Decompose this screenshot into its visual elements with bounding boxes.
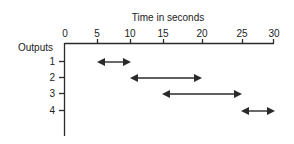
interval-arrow-output-1 [97, 58, 131, 66]
y-tick-label: 4 [49, 105, 55, 116]
x-tick-label: 15 [157, 28, 169, 39]
x-tick-label: 25 [236, 28, 248, 39]
x-tick-label: 0 [62, 28, 68, 39]
x-tick-label: 20 [196, 28, 208, 39]
x-tick-label: 30 [268, 28, 280, 39]
x-tick-label: 5 [94, 28, 100, 39]
y-axis-title: Outputs [18, 42, 53, 53]
x-axis-title: Time in seconds [132, 12, 204, 23]
y-axis [59, 43, 65, 136]
y-tick-label: 2 [49, 72, 55, 83]
y-tick-label: 3 [49, 88, 55, 99]
x-axis [65, 39, 275, 44]
interval-arrow-output-3 [162, 90, 242, 98]
interval-arrow-output-4 [241, 107, 275, 115]
x-tick-label: 10 [124, 28, 136, 39]
interval-arrow-output-2 [130, 74, 202, 82]
y-tick-label: 1 [49, 56, 55, 67]
timing-diagram: Time in seconds 0 5 10 15 20 25 30 Outpu… [0, 0, 294, 144]
